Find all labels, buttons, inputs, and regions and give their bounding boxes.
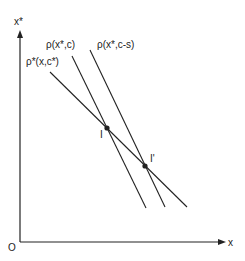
x-axis-arrow-icon xyxy=(218,239,226,245)
point-I-prime xyxy=(142,163,147,168)
curve-label-rho-c-minus-s: ρ(x*,c-s) xyxy=(97,39,134,50)
y-axis-label: x* xyxy=(14,16,23,27)
x-axis-label: x xyxy=(228,237,233,248)
origin-label: O xyxy=(8,242,16,253)
curve-rho-c xyxy=(72,56,146,208)
point-I-label: I xyxy=(100,129,103,140)
curve-rho-star xyxy=(50,72,187,207)
curve-label-rho-star: ρ*(x,c*) xyxy=(26,56,59,67)
point-I xyxy=(104,125,109,130)
y-axis-arrow-icon xyxy=(17,30,23,38)
point-I-prime-label: I' xyxy=(150,153,155,164)
diagram-canvas: x* x O ρ(x*,c) ρ(x*,c-s) ρ*(x,c*) I I' xyxy=(0,0,245,261)
curve-label-rho-c: ρ(x*,c) xyxy=(46,39,75,50)
